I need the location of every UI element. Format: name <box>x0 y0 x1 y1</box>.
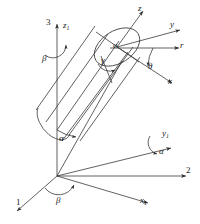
body-axis-y-label: y <box>170 20 174 29</box>
cylinder-generator-inner-2 <box>57 41 119 130</box>
global-axis-3-label: 3 <box>46 18 51 27</box>
alpha-y1-label: α <box>159 147 164 156</box>
x1-subscript: 1 <box>144 200 147 206</box>
beta-bottom-label: β <box>56 196 60 205</box>
beta-top-arc <box>45 45 66 58</box>
cylinder-generator-inner-3 <box>62 52 128 141</box>
gamma-label: γ <box>101 56 105 65</box>
theta-label: θ <box>148 62 152 71</box>
body-axis-y-line <box>117 30 180 47</box>
intermediate-axis-z1-label: z1 <box>63 21 70 31</box>
cylinder-generator-inner-4 <box>80 57 140 141</box>
global-axis-2-label: 2 <box>186 166 191 175</box>
alpha-origin-label: α <box>59 134 64 143</box>
intermediate-axis-y1-label: y1 <box>162 129 169 139</box>
cylinder-generator-inner-1 <box>46 34 108 122</box>
beta-bottom-arc <box>45 185 74 195</box>
diagram-canvas <box>0 0 200 224</box>
body-axis-r-label: r <box>180 41 184 50</box>
z1-subscript: 1 <box>67 25 70 31</box>
origin-o-label: o <box>113 41 118 50</box>
technical-diagram: 3 2 1 z1 y1 x1 z y r x o θ β β α α γ <box>0 0 200 224</box>
cylinder-far-cap-arc <box>37 108 70 140</box>
intermediate-axis-x1-label: x1 <box>140 196 147 206</box>
body-axis-x-label: x <box>168 77 172 86</box>
body-axis-z-line <box>117 11 143 47</box>
cylinder-generator-top <box>36 26 95 110</box>
alpha-y1-arc <box>148 136 157 154</box>
beta-top-label: β <box>42 54 46 63</box>
y1-subscript: 1 <box>166 133 169 139</box>
global-axis-1-label: 1 <box>16 198 21 207</box>
body-axis-z-label: z <box>138 4 142 13</box>
intermediate-axis-y1-line <box>57 148 171 176</box>
cylinder-axis-line <box>57 61 122 176</box>
